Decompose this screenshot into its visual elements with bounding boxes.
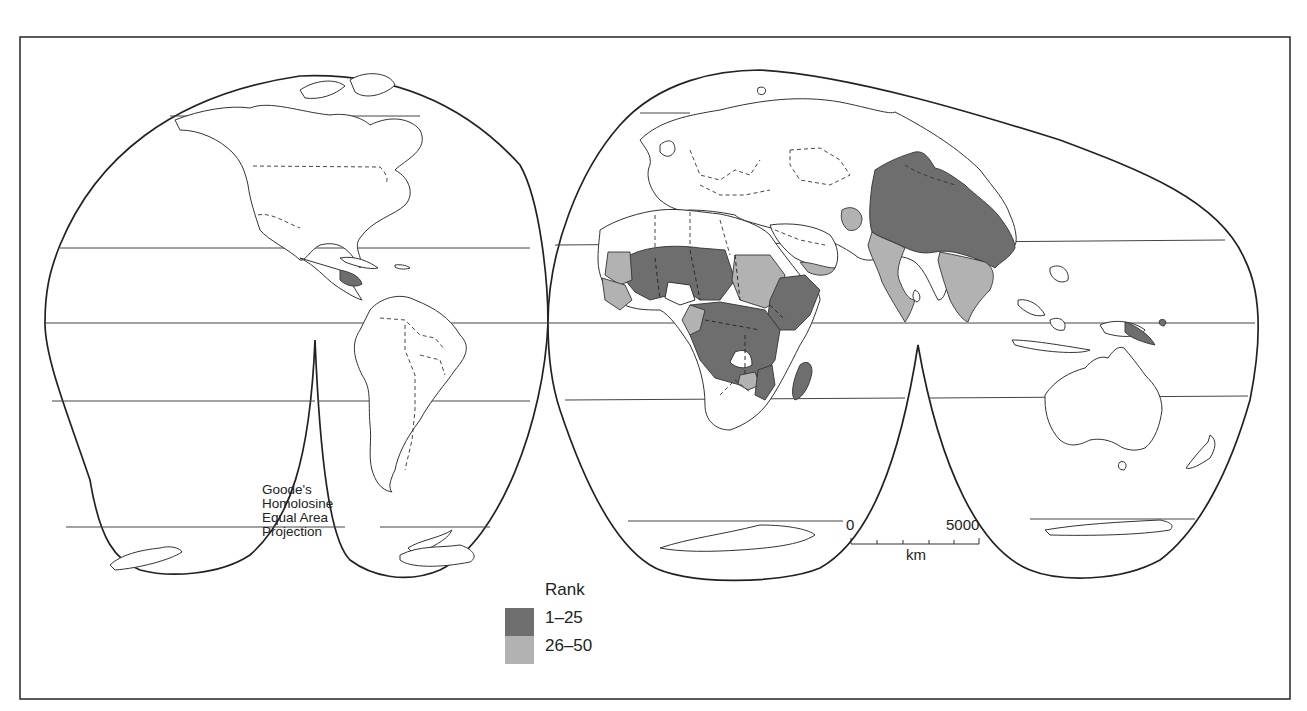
legend-swatch-rank-1-25 [505,608,534,636]
legend-swatch-rank-26-50 [505,636,534,664]
projection-label-line-4: Projection [262,525,333,539]
scale-bar-line [850,536,980,546]
scale-end-label: 5000 [946,516,979,533]
legend-label-rank-1-25: 1–25 [545,608,583,628]
legend-title: Rank [545,580,585,600]
scale-start-label: 0 [846,516,854,533]
legend-label-rank-26-50: 26–50 [545,636,592,656]
scale-unit-label: km [906,546,926,563]
projection-label-line-2: Homolosine [262,497,333,511]
projection-label-line-3: Equal Area [262,511,333,525]
projection-label-line-1: Goode's [262,483,333,497]
world-map [0,0,1307,711]
projection-label: Goode's Homolosine Equal Area Projection [262,483,333,539]
